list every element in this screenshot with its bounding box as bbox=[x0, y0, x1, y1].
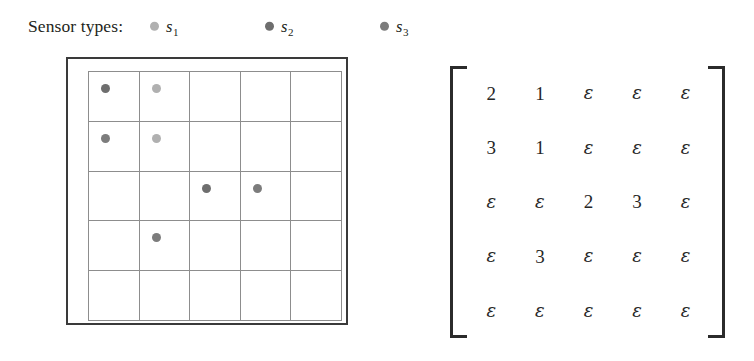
matrix-right-bracket bbox=[708, 66, 725, 338]
matrix-cell: 2 bbox=[467, 66, 516, 120]
grid-cell[interactable] bbox=[190, 221, 241, 271]
grid-cell[interactable] bbox=[140, 172, 191, 222]
grid-cell[interactable] bbox=[140, 271, 191, 321]
legend-entry-label: s2 bbox=[281, 19, 293, 36]
grid-cell[interactable] bbox=[89, 72, 140, 122]
matrix-cell: ε bbox=[564, 66, 613, 120]
matrix-cell: ε bbox=[661, 66, 710, 120]
matrix-cell: 1 bbox=[516, 120, 565, 174]
matrix-cells: 21εεε31εεεεε23εε3εεεεεεεε bbox=[467, 66, 710, 338]
grid-cell[interactable] bbox=[89, 172, 140, 222]
grid-cell[interactable] bbox=[241, 271, 292, 321]
matrix-cell: ε bbox=[613, 284, 662, 338]
matrix-cell: 3 bbox=[467, 120, 516, 174]
matrix-cell: ε bbox=[467, 229, 516, 283]
cost-matrix: 21εεε31εεεεε23εε3εεεεεεεε bbox=[440, 60, 736, 345]
grid-cell[interactable] bbox=[190, 72, 241, 122]
sensor-dot-icon bbox=[152, 84, 161, 93]
matrix-cell: ε bbox=[613, 229, 662, 283]
grid-cell[interactable] bbox=[190, 271, 241, 321]
grid-cell[interactable] bbox=[140, 122, 191, 172]
grid-cell[interactable] bbox=[291, 172, 342, 222]
grid-cell[interactable] bbox=[89, 271, 140, 321]
legend-entry-label: s1 bbox=[166, 19, 178, 36]
sensor-dot-icon bbox=[253, 184, 262, 193]
sensor-dot-icon bbox=[101, 134, 110, 143]
grid-cell[interactable] bbox=[190, 122, 241, 172]
grid-cell[interactable] bbox=[190, 172, 241, 222]
matrix-cell: ε bbox=[661, 175, 710, 229]
sensor-grid-panel bbox=[66, 57, 348, 325]
matrix-cell: 3 bbox=[613, 175, 662, 229]
matrix-cell: ε bbox=[613, 120, 662, 174]
sensor-grid bbox=[88, 71, 342, 321]
grid-cell[interactable] bbox=[241, 122, 292, 172]
matrix-cell: ε bbox=[564, 120, 613, 174]
legend-entry-s3: s3 bbox=[380, 18, 408, 35]
matrix-cell: ε bbox=[661, 120, 710, 174]
grid-cell[interactable] bbox=[140, 221, 191, 271]
grid-cell[interactable] bbox=[291, 271, 342, 321]
grid-cell[interactable] bbox=[140, 72, 191, 122]
grid-cell[interactable] bbox=[291, 221, 342, 271]
matrix-cell: ε bbox=[467, 284, 516, 338]
legend-dot-icon bbox=[380, 22, 389, 31]
matrix-cell: 2 bbox=[564, 175, 613, 229]
matrix-cell: ε bbox=[516, 284, 565, 338]
grid-cell[interactable] bbox=[89, 122, 140, 172]
matrix-cell: ε bbox=[661, 229, 710, 283]
matrix-cell: ε bbox=[661, 284, 710, 338]
legend-dot-icon bbox=[150, 22, 159, 31]
matrix-cell: ε bbox=[564, 229, 613, 283]
matrix-cell: 3 bbox=[516, 229, 565, 283]
legend-label: Sensor types: bbox=[28, 16, 123, 37]
sensor-legend: Sensor types: s1s2s3 bbox=[28, 13, 123, 39]
grid-cell[interactable] bbox=[89, 221, 140, 271]
matrix-cell: ε bbox=[467, 175, 516, 229]
legend-entry-s1: s1 bbox=[150, 18, 178, 35]
matrix-cell: ε bbox=[613, 66, 662, 120]
matrix-cell: 1 bbox=[516, 66, 565, 120]
sensor-dot-icon bbox=[202, 184, 211, 193]
grid-cell[interactable] bbox=[241, 72, 292, 122]
sensor-dot-icon bbox=[152, 233, 161, 242]
sensor-dot-icon bbox=[101, 84, 110, 93]
matrix-left-bracket bbox=[450, 66, 467, 338]
grid-cell[interactable] bbox=[241, 221, 292, 271]
sensor-dot-icon bbox=[152, 134, 161, 143]
legend-entry-s2: s2 bbox=[265, 18, 293, 35]
legend-entry-label: s3 bbox=[396, 19, 408, 36]
grid-cell[interactable] bbox=[291, 122, 342, 172]
matrix-cell: ε bbox=[564, 284, 613, 338]
grid-cell[interactable] bbox=[241, 172, 292, 222]
grid-cell[interactable] bbox=[291, 72, 342, 122]
matrix-cell: ε bbox=[516, 175, 565, 229]
legend-dot-icon bbox=[265, 22, 274, 31]
